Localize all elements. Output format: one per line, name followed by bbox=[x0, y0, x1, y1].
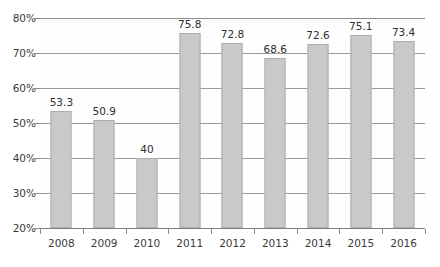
y-axis-tick bbox=[33, 193, 40, 194]
bar-chart: 20%30%40%50%60%70%80% 53.350.94075.872.8… bbox=[0, 0, 440, 267]
bar-value-label: 50.9 bbox=[92, 106, 115, 117]
bar bbox=[265, 58, 286, 228]
x-axis-tick bbox=[254, 229, 255, 234]
y-axis-tick-label: 40% bbox=[2, 153, 36, 164]
bar bbox=[51, 111, 72, 228]
bar-group: 40 bbox=[126, 18, 169, 228]
y-axis-tick bbox=[33, 88, 40, 89]
x-axis-category-label: 2012 bbox=[219, 238, 246, 249]
bar-value-label: 75.1 bbox=[349, 21, 372, 32]
bar-group: 53.3 bbox=[40, 18, 83, 228]
x-axis-tick bbox=[40, 229, 41, 234]
bar-value-label: 53.3 bbox=[50, 97, 73, 108]
x-axis-tick bbox=[339, 229, 340, 234]
y-axis-tick-label: 70% bbox=[2, 48, 36, 59]
plot-area: 53.350.94075.872.868.672.675.173.4 bbox=[40, 18, 425, 228]
y-axis-tick bbox=[33, 228, 40, 229]
bar-group: 75.8 bbox=[168, 18, 211, 228]
bar bbox=[350, 35, 371, 228]
x-axis-tick bbox=[382, 229, 383, 234]
bar-value-label: 68.6 bbox=[264, 44, 287, 55]
x-axis-labels: 200820092010201120122013201420152016 bbox=[40, 238, 425, 258]
y-axis-tick bbox=[33, 123, 40, 124]
bar-group: 72.6 bbox=[297, 18, 340, 228]
y-axis-labels: 20%30%40%50%60%70%80% bbox=[0, 0, 36, 267]
bar-group: 73.4 bbox=[382, 18, 425, 228]
x-axis-category-label: 2010 bbox=[134, 238, 161, 249]
bar bbox=[222, 43, 243, 228]
x-axis-category-label: 2015 bbox=[347, 238, 374, 249]
bar-group: 68.6 bbox=[254, 18, 297, 228]
bar-group: 50.9 bbox=[83, 18, 126, 228]
x-axis-tick bbox=[297, 229, 298, 234]
x-axis-tick bbox=[126, 229, 127, 234]
x-axis-category-label: 2008 bbox=[48, 238, 75, 249]
bar-value-label: 72.8 bbox=[221, 29, 244, 40]
y-axis-tick-label: 80% bbox=[2, 13, 36, 24]
bar bbox=[179, 33, 200, 228]
y-axis-tick bbox=[33, 53, 40, 54]
bar bbox=[136, 158, 157, 228]
bar bbox=[308, 44, 329, 228]
x-axis-tick bbox=[168, 229, 169, 234]
x-axis-tick bbox=[83, 229, 84, 234]
bar-group: 75.1 bbox=[339, 18, 382, 228]
x-axis-category-label: 2014 bbox=[305, 238, 332, 249]
bar-value-label: 73.4 bbox=[392, 27, 415, 38]
x-axis-ticks bbox=[40, 229, 425, 235]
x-axis-tick bbox=[211, 229, 212, 234]
x-axis-category-label: 2011 bbox=[176, 238, 203, 249]
bar-group: 72.8 bbox=[211, 18, 254, 228]
bar-value-label: 40 bbox=[140, 144, 153, 155]
y-axis-tick-label: 50% bbox=[2, 118, 36, 129]
x-axis-category-label: 2016 bbox=[390, 238, 417, 249]
x-axis-category-label: 2013 bbox=[262, 238, 289, 249]
x-axis-tick bbox=[425, 229, 426, 234]
bar bbox=[393, 41, 414, 228]
bar-value-label: 72.6 bbox=[306, 30, 329, 41]
y-axis-tick-label: 30% bbox=[2, 188, 36, 199]
x-axis-category-label: 2009 bbox=[91, 238, 118, 249]
bar-value-label: 75.8 bbox=[178, 19, 201, 30]
y-axis-tick-label: 60% bbox=[2, 83, 36, 94]
y-axis-tick-label: 20% bbox=[2, 223, 36, 234]
y-axis-tick bbox=[33, 158, 40, 159]
bar bbox=[94, 120, 115, 228]
y-axis-tick bbox=[33, 18, 40, 19]
